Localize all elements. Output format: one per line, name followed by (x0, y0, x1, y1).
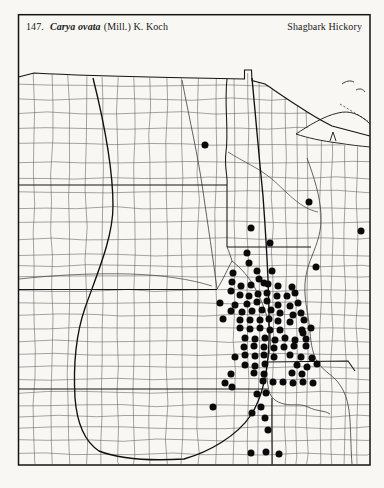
occurrence-dot (222, 380, 229, 387)
occurrence-dot (238, 283, 245, 290)
occurrence-dot (254, 391, 261, 398)
occurrence-dot (269, 268, 276, 275)
occurrence-dot (263, 390, 270, 397)
occurrence-dot (306, 199, 313, 206)
occurrence-dot (259, 307, 266, 314)
occurrence-dot (303, 343, 310, 350)
occurrence-dot (292, 337, 299, 344)
occurrence-dot (242, 362, 249, 369)
occurrence-dot (291, 343, 298, 350)
occurrence-dot (274, 293, 281, 300)
occurrence-dot (242, 352, 249, 359)
occurrence-dot (232, 302, 239, 309)
occurrence-dot (313, 264, 320, 271)
occurrence-dot (264, 290, 271, 297)
occurrence-dot (275, 318, 282, 325)
occurrence-dot (260, 378, 267, 385)
occurrence-dot (304, 364, 311, 371)
occurrence-dot (258, 404, 265, 411)
occurrence-dot (247, 326, 254, 333)
occurrence-dot (261, 344, 268, 351)
occurrence-dot (252, 336, 259, 343)
occurrence-dot (277, 310, 284, 317)
atlas-page: 147.Carya ovata(Mill.) K. Koch Shagbark … (0, 0, 384, 488)
occurrence-dot (287, 319, 294, 326)
occurrence-dot (266, 316, 273, 323)
occurrence-dot (228, 308, 235, 315)
occurrence-dot (247, 317, 254, 324)
occurrence-dot (262, 361, 269, 368)
occurrence-dot (262, 415, 269, 422)
occurrence-dot (249, 308, 256, 315)
occurrence-dot (295, 300, 302, 307)
occurrence-dot (290, 380, 297, 387)
occurrence-dot (298, 310, 305, 317)
occurrence-dot (261, 371, 268, 378)
occurrence-dot (310, 380, 317, 387)
occurrence-dot (292, 290, 299, 297)
occurrence-dot (237, 292, 244, 299)
occurrence-dot (308, 325, 315, 332)
occurrence-dot (217, 300, 224, 307)
occurrence-dot (301, 317, 308, 324)
occurrence-dot (309, 355, 316, 362)
occurrence-dot (228, 371, 235, 378)
occurrence-dot (237, 317, 244, 324)
occurrence-dot (299, 371, 306, 378)
occurrence-dot (264, 298, 271, 305)
occurrence-dot (287, 303, 294, 310)
occurrence-dot (303, 336, 310, 343)
occurrence-dot (314, 361, 321, 368)
occurrence-dot (298, 354, 305, 361)
occurrence-dot (232, 354, 239, 361)
mn-west-border (225, 79, 227, 247)
occurrence-dot (220, 316, 227, 323)
niobrara-river (19, 274, 212, 286)
occurrence-dot (252, 353, 259, 360)
occurrence-dot (249, 410, 256, 417)
ia-mo-border (267, 361, 355, 371)
occurrence-dot (252, 363, 259, 370)
occurrence-dot (294, 362, 301, 369)
distribution-map (0, 0, 384, 488)
occurrence-dot (254, 299, 261, 306)
occurrence-dot (284, 293, 291, 300)
occurrence-dot (289, 284, 296, 291)
occurrence-dot (229, 279, 236, 286)
occurrence-dot (254, 268, 261, 275)
occurrence-dot (275, 283, 282, 290)
occurrence-dot (257, 317, 264, 324)
occurrence-dot (242, 335, 249, 342)
occurrence-dot (246, 293, 253, 300)
occurrence-dot (300, 379, 307, 386)
occurrence-dot (230, 270, 237, 277)
occurrence-dot (300, 330, 307, 337)
occurrence-dot (265, 427, 272, 434)
occurrence-dot (244, 301, 251, 308)
canada-lake-mask (19, 40, 371, 147)
occurrence-dot (237, 325, 244, 332)
occurrence-dot (267, 327, 274, 334)
occurrence-dot (358, 228, 365, 235)
occurrence-dot (244, 250, 251, 257)
minnesota-river (228, 152, 318, 212)
occurrence-dot (267, 240, 274, 247)
occurrence-dot (262, 335, 269, 342)
occurrence-dot (275, 302, 282, 309)
occurrence-dot (248, 282, 255, 289)
occurrence-dot (246, 260, 253, 267)
occurrence-dot (281, 344, 288, 351)
great-plains-boundary (74, 78, 269, 460)
occurrence-dot (265, 281, 272, 288)
occurrence-dot (251, 370, 258, 377)
occurrence-dot (202, 142, 209, 149)
occurrence-dot (255, 291, 262, 298)
rivers (19, 80, 352, 464)
occurrence-dot (248, 450, 255, 457)
occurrence-dot (280, 379, 287, 386)
occurrence-dot (210, 404, 217, 411)
occurrence-dot (229, 384, 236, 391)
occurrence-dot (272, 337, 279, 344)
occurrence-dot (287, 352, 294, 359)
occurrence-dot (289, 370, 296, 377)
